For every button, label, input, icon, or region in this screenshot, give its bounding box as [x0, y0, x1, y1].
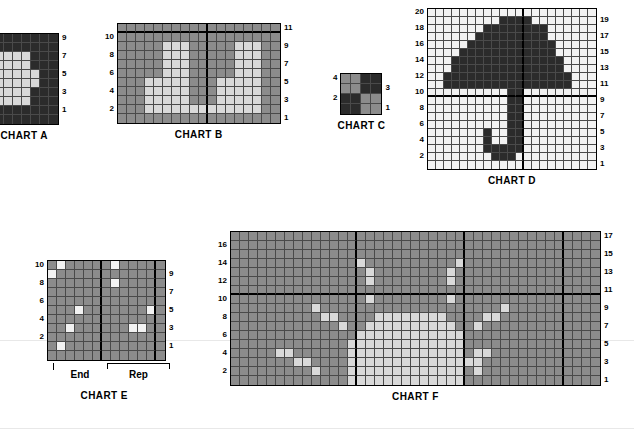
grid-cell[interactable] — [366, 322, 375, 331]
grid-cell[interactable] — [31, 34, 40, 43]
grid-cell[interactable] — [465, 367, 474, 376]
grid-cell[interactable] — [564, 121, 572, 129]
grid-cell[interactable] — [452, 33, 460, 41]
grid-cell[interactable] — [573, 277, 582, 286]
grid-cell[interactable] — [555, 268, 564, 277]
grid-cell[interactable] — [580, 81, 588, 89]
grid-cell[interactable] — [519, 313, 528, 322]
grid-cell[interactable] — [163, 42, 172, 51]
grid-cell[interactable] — [483, 313, 492, 322]
grid-cell[interactable] — [484, 9, 492, 17]
grid-cell[interactable] — [258, 268, 267, 277]
grid-cell[interactable] — [508, 33, 516, 41]
grid-cell[interactable] — [564, 331, 573, 340]
grid-cell[interactable] — [249, 277, 258, 286]
grid-cell[interactable] — [48, 261, 57, 270]
grid-cell[interactable] — [548, 81, 556, 89]
grid-cell[interactable] — [303, 250, 312, 259]
grid-cell[interactable] — [456, 286, 465, 295]
grid-cell[interactable] — [420, 358, 429, 367]
grid-cell[interactable] — [163, 24, 172, 33]
grid-cell[interactable] — [402, 313, 411, 322]
grid-cell[interactable] — [556, 73, 564, 81]
grid-cell[interactable] — [258, 241, 267, 250]
grid-cell[interactable] — [452, 137, 460, 145]
grid-cell[interactable] — [572, 41, 580, 49]
grid-cell[interactable] — [548, 25, 556, 33]
grid-cell[interactable] — [591, 331, 600, 340]
grid-cell[interactable] — [303, 322, 312, 331]
grid-cell[interactable] — [572, 73, 580, 81]
grid-cell[interactable] — [249, 304, 258, 313]
grid-cell[interactable] — [75, 324, 84, 333]
grid-cell[interactable] — [444, 105, 452, 113]
grid-cell[interactable] — [48, 270, 57, 279]
grid-cell[interactable] — [492, 129, 500, 137]
grid-cell[interactable] — [231, 304, 240, 313]
grid-cell[interactable] — [532, 153, 540, 161]
grid-cell[interactable] — [384, 250, 393, 259]
grid-cell[interactable] — [330, 349, 339, 358]
grid-cell[interactable] — [156, 324, 165, 333]
grid-cell[interactable] — [190, 60, 199, 69]
grid-cell[interactable] — [474, 232, 483, 241]
grid-cell[interactable] — [572, 113, 580, 121]
grid-cell[interactable] — [519, 340, 528, 349]
grid-cell[interactable] — [456, 376, 465, 385]
grid-cell[interactable] — [190, 87, 199, 96]
grid-cell[interactable] — [262, 87, 271, 96]
grid-cell[interactable] — [508, 65, 516, 73]
grid-cell[interactable] — [420, 304, 429, 313]
grid-cell[interactable] — [438, 340, 447, 349]
grid-cell[interactable] — [580, 121, 588, 129]
grid-cell[interactable] — [546, 241, 555, 250]
grid-cell[interactable] — [348, 295, 357, 304]
grid-cell[interactable] — [501, 295, 510, 304]
grid-cell[interactable] — [357, 322, 366, 331]
grid-cell[interactable] — [294, 313, 303, 322]
grid-cell[interactable] — [147, 324, 156, 333]
grid-cell[interactable] — [588, 33, 596, 41]
grid-cell[interactable] — [460, 33, 468, 41]
grid-cell[interactable] — [452, 17, 460, 25]
grid-cell[interactable] — [500, 41, 508, 49]
grid-cell[interactable] — [564, 322, 573, 331]
grid-cell[interactable] — [402, 250, 411, 259]
grid-cell[interactable] — [492, 376, 501, 385]
grid-cell[interactable] — [476, 49, 484, 57]
grid-cell[interactable] — [240, 277, 249, 286]
grid-cell[interactable] — [524, 73, 532, 81]
grid-cell[interactable] — [428, 129, 436, 137]
grid-cell[interactable] — [556, 89, 564, 97]
grid-cell[interactable] — [564, 241, 573, 250]
grid-cell[interactable] — [456, 232, 465, 241]
grid-cell[interactable] — [138, 297, 147, 306]
grid-cell[interactable] — [591, 322, 600, 331]
grid-cell[interactable] — [285, 358, 294, 367]
grid-cell[interactable] — [492, 145, 500, 153]
grid-cell[interactable] — [22, 97, 31, 106]
grid-cell[interactable] — [474, 241, 483, 250]
grid-cell[interactable] — [572, 161, 580, 169]
grid-cell[interactable] — [172, 96, 181, 105]
grid-cell[interactable] — [540, 137, 548, 145]
grid-cell[interactable] — [312, 232, 321, 241]
grid-cell[interactable] — [573, 376, 582, 385]
grid-cell[interactable] — [460, 161, 468, 169]
grid-cell[interactable] — [402, 358, 411, 367]
grid-cell[interactable] — [528, 340, 537, 349]
grid-cell[interactable] — [49, 43, 58, 52]
grid-cell[interactable] — [447, 268, 456, 277]
grid-cell[interactable] — [66, 279, 75, 288]
grid-cell[interactable] — [492, 259, 501, 268]
grid-cell[interactable] — [444, 97, 452, 105]
grid-cell[interactable] — [199, 87, 208, 96]
grid-cell[interactable] — [111, 306, 120, 315]
grid-cell[interactable] — [339, 277, 348, 286]
grid-cell[interactable] — [452, 121, 460, 129]
grid-cell[interactable] — [492, 121, 500, 129]
grid-cell[interactable] — [84, 324, 93, 333]
grid-cell[interactable] — [276, 295, 285, 304]
grid-cell[interactable] — [573, 232, 582, 241]
grid-cell[interactable] — [147, 315, 156, 324]
